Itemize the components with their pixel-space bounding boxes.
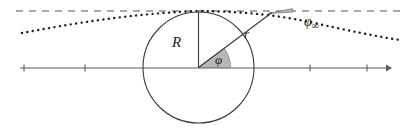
geometry-diagram: R r φ φ∞: [0, 0, 411, 133]
radius-r-segment: [199, 13, 273, 68]
horizontal-axis-arrow-icon: [386, 65, 392, 72]
label-angle-phi-infinity: φ∞: [304, 14, 319, 31]
label-radius-R: R: [171, 34, 181, 50]
label-angle-phi: φ: [215, 52, 222, 67]
diagram-canvas: R r φ φ∞: [0, 0, 411, 133]
dotted-trajectory: [22, 11, 400, 40]
label-radius-r: r: [244, 26, 250, 41]
label-angle-phi-infinity-subscript: ∞: [312, 20, 319, 31]
